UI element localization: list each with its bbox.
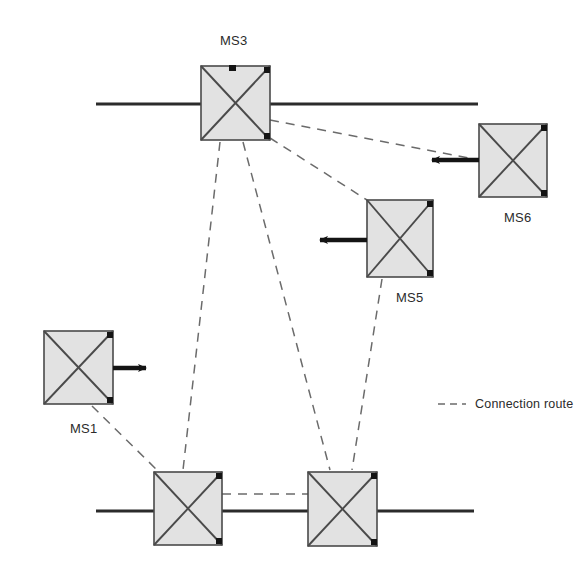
connection-route-ms3-to-ms6	[270, 120, 479, 160]
switch-node-ms1[interactable]	[44, 331, 113, 404]
switch-node-ms-bottom-left[interactable]	[154, 472, 222, 545]
connection-route-ms5-to-bottom-right	[352, 279, 382, 470]
connection-route-ms3-to-bottom-right	[243, 142, 330, 470]
node-label-ms5: MS5	[396, 290, 423, 305]
node-label-ms6: MS6	[504, 210, 531, 225]
legend-connection-route-label: Connection route	[475, 397, 573, 411]
switch-node-ms6[interactable]	[479, 124, 547, 197]
topology-diagram-canvas: MS3MS6MS5MS1 Connection route	[0, 0, 583, 572]
connection-routes-group	[92, 120, 479, 494]
node-label-ms3: MS3	[220, 33, 247, 48]
switch-node-ms3[interactable]	[201, 66, 270, 140]
ms3-top-port-marker	[229, 65, 236, 71]
topology-diagram-svg	[0, 0, 583, 572]
switch-node-ms-bottom-right[interactable]	[308, 472, 377, 546]
switch-nodes-group	[44, 65, 547, 546]
node-label-ms1: MS1	[70, 421, 97, 436]
switch-node-ms5[interactable]	[367, 200, 433, 277]
connection-route-ms3-to-ms5	[270, 138, 367, 200]
connection-route-ms1-to-bottom-left	[92, 406, 157, 470]
bus-lines-group	[96, 104, 478, 511]
connection-route-ms3-to-bottom-left	[183, 142, 220, 470]
